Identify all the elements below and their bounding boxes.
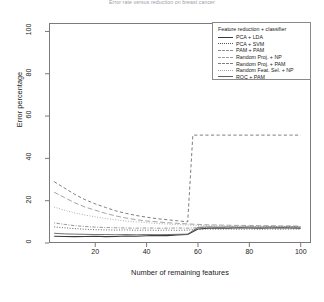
y-tick-label: 20 xyxy=(14,196,42,206)
legend: Feature reduction + classifier PCA + LDA… xyxy=(212,22,311,80)
x-tick-label: 100 xyxy=(286,248,316,255)
legend-item-label: PAM + PAM xyxy=(236,47,264,53)
legend-item-label: Random Feat. Sel. + NP xyxy=(236,67,294,73)
y-tick-label: 80 xyxy=(14,69,42,79)
chart-root: Error rate versus reduction on breast ca… xyxy=(0,0,324,302)
legend-item[interactable]: Random Proj. + PAM xyxy=(217,60,307,67)
legend-line-swatch xyxy=(217,41,234,47)
legend-line-swatch xyxy=(217,54,234,60)
legend-item-label: PCA + LDA xyxy=(236,34,263,40)
legend-line-swatch xyxy=(217,47,234,53)
legend-item-label: Random Proj. + NP xyxy=(236,54,282,60)
legend-title: Feature reduction + classifier xyxy=(218,26,307,32)
x-tick-label: 60 xyxy=(183,248,213,255)
x-tick-label: 20 xyxy=(80,248,110,255)
legend-item-label: ROC + PAM xyxy=(236,74,265,80)
y-axis-label: Error percentage xyxy=(15,40,24,160)
y-tick-label: 60 xyxy=(14,111,42,121)
y-tick-label: 100 xyxy=(14,26,42,36)
legend-item[interactable]: Random Proj. + NP xyxy=(217,54,307,61)
legend-item-label: Random Proj. + PAM xyxy=(236,61,286,67)
x-tick-label: 80 xyxy=(234,248,264,255)
legend-line-swatch xyxy=(217,61,234,67)
legend-line-swatch xyxy=(217,74,234,80)
y-tick-label: 40 xyxy=(14,153,42,163)
legend-line-swatch xyxy=(217,34,234,40)
legend-item[interactable]: PAM + PAM xyxy=(217,47,307,54)
x-tick-label: 40 xyxy=(132,248,162,255)
x-axis-label: Number of remaining features xyxy=(49,268,311,277)
legend-item[interactable]: PCA + SVM xyxy=(217,41,307,48)
legend-item-label: PCA + SVM xyxy=(236,41,264,47)
legend-item[interactable]: Random Feat. Sel. + NP xyxy=(217,67,307,74)
chart-title: Error rate versus reduction on breast ca… xyxy=(0,0,324,6)
legend-item[interactable]: PCA + LDA xyxy=(217,34,307,41)
legend-entries: PCA + LDAPCA + SVMPAM + PAMRandom Proj. … xyxy=(217,34,307,80)
legend-item[interactable]: ROC + PAM xyxy=(217,74,307,81)
y-tick-label: 0 xyxy=(14,238,42,248)
legend-line-swatch xyxy=(217,67,234,73)
